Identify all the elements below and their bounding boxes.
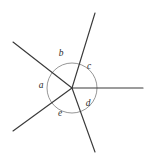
angle-label-e: e	[58, 108, 62, 118]
angle-label-a: a	[39, 80, 44, 90]
angle-label-d: d	[86, 98, 91, 108]
angle-label-b: b	[59, 48, 64, 58]
angle-diagram: a b c d e	[0, 0, 149, 163]
figure-container: a b c d e	[0, 0, 149, 163]
